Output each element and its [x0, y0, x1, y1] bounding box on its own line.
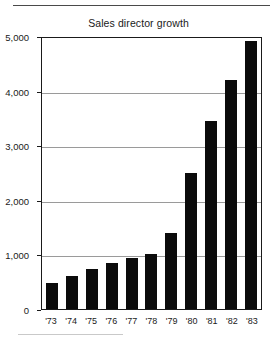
bar	[245, 41, 257, 309]
x-axis-tick-label: '83	[243, 316, 261, 326]
x-axis-tick-label: '79	[163, 316, 181, 326]
y-axis-tick-label: 0	[24, 305, 29, 316]
y-axis-tick-mark	[37, 310, 41, 311]
x-axis-tick-label: '82	[223, 316, 241, 326]
y-axis-tick-label: 3,000	[5, 141, 29, 152]
bar	[86, 269, 98, 309]
bar	[66, 276, 78, 309]
bar	[126, 258, 138, 309]
y-axis-tick-label: 4,000	[5, 86, 29, 97]
x-axis-tick-label: '76	[102, 316, 120, 326]
bottom-divider-rule	[18, 334, 123, 335]
bar	[165, 233, 177, 309]
plot-area	[41, 37, 262, 310]
x-axis-tick-label: '77	[122, 316, 140, 326]
y-axis-tick-label: 1,000	[5, 250, 29, 261]
x-axis-tick-label: '75	[82, 316, 100, 326]
x-axis-tick-label: '74	[62, 316, 80, 326]
y-axis-tick-label: 5,000	[5, 32, 29, 43]
bar	[185, 173, 197, 310]
chart-title: Sales director growth	[0, 17, 277, 29]
bar	[145, 254, 157, 309]
x-axis-tick-label: '78	[142, 316, 160, 326]
x-axis-tick-label: '80	[183, 316, 201, 326]
x-axis-tick-label: '73	[42, 316, 60, 326]
y-axis-tick-label: 2,000	[5, 195, 29, 206]
top-divider-rule	[13, 5, 270, 6]
bar	[225, 80, 237, 309]
y-axis-labels: 01,0002,0003,0004,0005,000	[0, 0, 37, 342]
x-axis-tick-label: '81	[203, 316, 221, 326]
bar	[46, 283, 58, 309]
bar-series	[42, 38, 261, 309]
bar	[205, 121, 217, 309]
bar	[106, 263, 118, 309]
x-axis-labels: '73'74'75'76'77'78'79'80'81'82'83	[41, 316, 262, 326]
